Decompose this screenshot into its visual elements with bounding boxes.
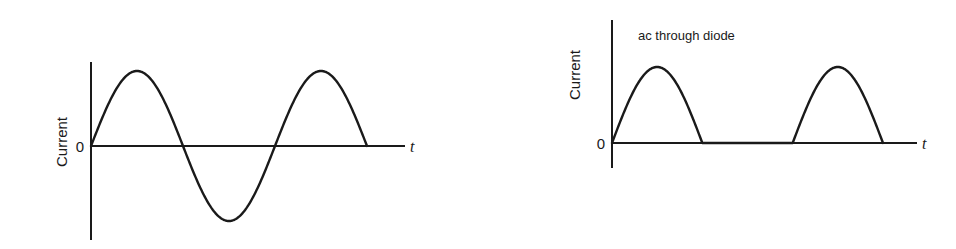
figure: Current 0 t ac through diode Current 0 t	[0, 0, 956, 249]
left-chart: Current 0 t	[53, 62, 415, 240]
right-x-axis-label: t	[922, 135, 927, 152]
right-chart: ac through diode Current 0 t	[566, 20, 927, 168]
right-y-axis-label: Current	[566, 49, 583, 100]
right-rectified-wave	[612, 67, 883, 143]
left-y-axis-label: Current	[53, 116, 70, 167]
right-zero-label: 0	[597, 135, 605, 152]
left-zero-label: 0	[76, 138, 84, 155]
left-x-axis-label: t	[410, 138, 415, 155]
right-chart-title: ac through diode	[638, 28, 735, 43]
